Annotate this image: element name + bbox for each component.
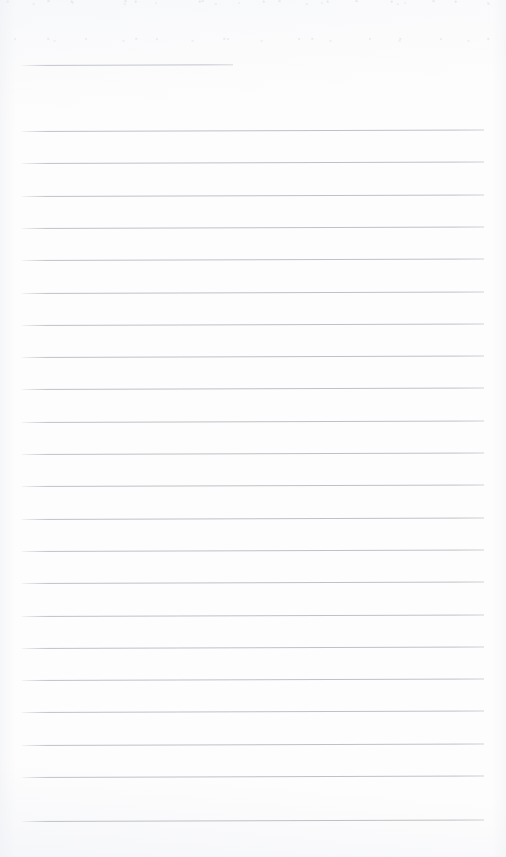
rule-line xyxy=(22,420,484,422)
rule-line xyxy=(22,259,484,261)
rule-line xyxy=(22,291,484,293)
rule-line xyxy=(22,582,484,584)
rule-line xyxy=(22,820,484,822)
rule-line xyxy=(22,323,484,325)
rule-line xyxy=(22,679,484,681)
lined-paper-page xyxy=(0,0,506,857)
rule-line xyxy=(22,549,484,551)
rule-line xyxy=(22,194,484,196)
rule-line xyxy=(22,162,484,164)
rule-line xyxy=(22,130,484,132)
rule-line xyxy=(22,485,484,487)
rule-line xyxy=(22,646,484,648)
rule-line xyxy=(22,517,484,519)
header-rule xyxy=(22,64,233,66)
paper-texture xyxy=(0,0,506,857)
scan-vignette xyxy=(0,0,506,857)
rule-line xyxy=(22,776,484,778)
rule-line xyxy=(22,226,484,228)
rule-line xyxy=(22,614,484,616)
rule-line xyxy=(22,356,484,358)
rule-line xyxy=(22,453,484,455)
rule-line xyxy=(22,711,484,713)
rule-line xyxy=(22,743,484,745)
rule-line xyxy=(22,388,484,390)
